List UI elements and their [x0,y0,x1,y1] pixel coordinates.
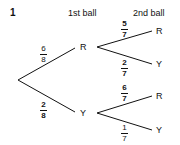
node-RR: R [156,26,163,36]
prob-Y-R: 6 7 [121,84,128,103]
node-RY: Y [156,59,162,69]
prob-R-R: 5 7 [121,20,128,39]
node-YR: R [156,91,163,101]
node-first-R: R [80,42,87,52]
prob-R-Y: 2 7 [121,59,128,78]
node-first-Y: Y [80,108,86,118]
prob-root-R: 6 8 [40,45,47,64]
node-YY: Y [156,125,162,135]
prob-root-Y: 2 8 [40,101,47,120]
prob-Y-Y: 1 7 [121,124,128,143]
tree-branches [0,0,180,145]
